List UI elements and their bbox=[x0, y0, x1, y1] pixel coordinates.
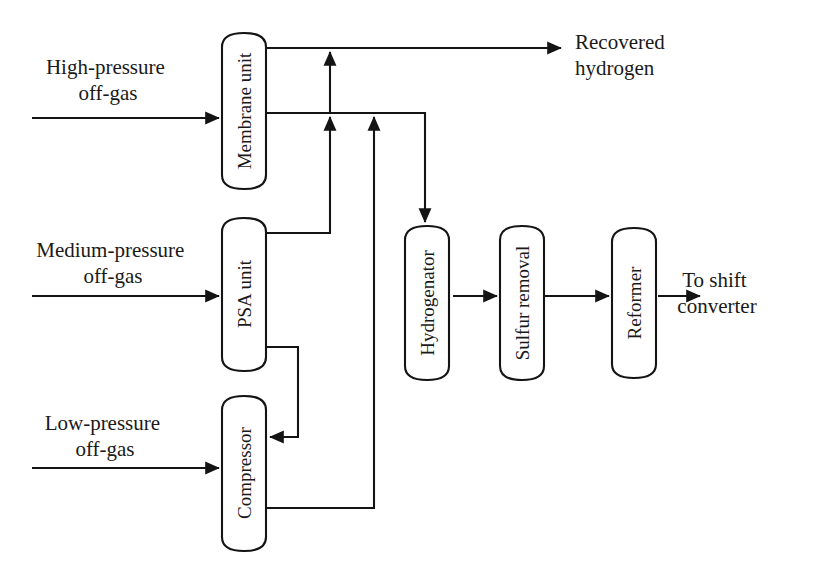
label-recovered-hydrogen: Recovered hydrogen bbox=[575, 30, 670, 80]
psa-unit-label: PSA unit bbox=[234, 259, 255, 328]
hydrogenator-label: Hydrogenator bbox=[417, 250, 438, 356]
reformer-label: Reformer bbox=[624, 266, 645, 339]
vessel-reformer[interactable]: Reformer bbox=[612, 228, 656, 378]
sulfur-removal-label: Sulfur removal bbox=[512, 246, 533, 361]
membrane-unit-label: Membrane unit bbox=[234, 52, 255, 169]
label-medium-pressure-off-gas: Medium-pressure off-gas bbox=[36, 238, 189, 288]
process-flow-diagram: Membrane unit PSA unit Compressor Hydrog… bbox=[0, 0, 823, 569]
vessel-psa-unit[interactable]: PSA unit bbox=[222, 218, 266, 371]
flow-canvas: Membrane unit PSA unit Compressor Hydrog… bbox=[0, 0, 823, 569]
vessel-membrane-unit[interactable]: Membrane unit bbox=[222, 33, 266, 189]
pipe-compressor-to-header bbox=[264, 117, 374, 508]
label-to-shift-converter: To shift converter bbox=[677, 268, 756, 318]
label-high-pressure-off-gas: High-pressure off-gas bbox=[46, 55, 170, 105]
vessel-hydrogenator[interactable]: Hydrogenator bbox=[405, 226, 449, 380]
label-low-pressure-off-gas: Low-pressure off-gas bbox=[45, 411, 166, 461]
compressor-label: Compressor bbox=[234, 426, 255, 519]
pipe-psa-to-header bbox=[264, 117, 330, 233]
vessel-group: Membrane unit PSA unit Compressor Hydrog… bbox=[222, 33, 656, 551]
vessel-sulfur-removal[interactable]: Sulfur removal bbox=[500, 226, 544, 380]
vessel-compressor[interactable]: Compressor bbox=[222, 396, 266, 551]
pipe-psa-to-compressor bbox=[264, 347, 298, 437]
pipe-membrane-to-hydrogenator-header bbox=[264, 113, 425, 222]
